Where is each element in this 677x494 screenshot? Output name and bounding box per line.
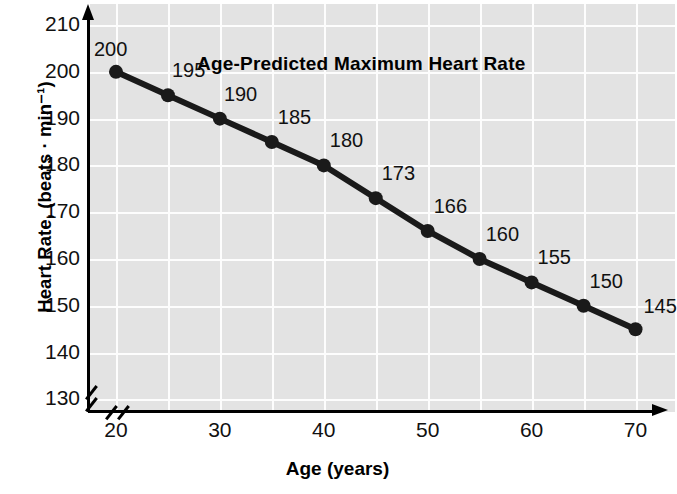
x-tick-label: 60 [502, 418, 562, 442]
data-point-label: 173 [382, 162, 415, 185]
x-tick-label: 20 [86, 418, 146, 442]
gridline-vertical [116, 4, 118, 412]
data-point-label: 145 [644, 295, 677, 318]
data-point-label: 190 [224, 83, 257, 106]
data-point-label: 155 [538, 246, 571, 269]
data-point-label: 200 [94, 38, 127, 61]
data-point-label: 185 [278, 106, 311, 129]
x-tick-label: 30 [190, 418, 250, 442]
gridline-vertical [636, 4, 638, 412]
data-point-label: 150 [590, 270, 623, 293]
y-axis-arrow-icon [82, 4, 94, 20]
y-axis-line [87, 18, 90, 412]
y-axis-title: Heart Rate, (beats · min⁻¹) [34, 32, 56, 362]
x-axis-arrow-icon [652, 404, 668, 416]
gridline-horizontal [90, 259, 675, 261]
gridline-horizontal [90, 353, 675, 355]
gridline-vertical [532, 4, 534, 412]
data-point-label: 195 [172, 59, 205, 82]
gridline-horizontal [90, 212, 675, 214]
gridline-horizontal [90, 119, 675, 121]
x-tick-label: 50 [398, 418, 458, 442]
x-tick-label: 70 [606, 418, 666, 442]
x-axis-line [88, 410, 655, 413]
gridline-horizontal [90, 399, 675, 401]
data-point-label: 166 [434, 195, 467, 218]
gridline-vertical [584, 4, 586, 412]
data-point-label: 160 [486, 223, 519, 246]
gridline-horizontal [90, 25, 675, 27]
data-point-label: 180 [330, 129, 363, 152]
gridline-horizontal [90, 306, 675, 308]
x-tick-label: 40 [294, 418, 354, 442]
y-tick-label: 130 [0, 386, 80, 410]
chart-title: Age-Predicted Maximum Heart Rate [197, 53, 525, 75]
gridline-vertical [168, 4, 170, 412]
x-axis-title: Age (years) [0, 458, 675, 480]
